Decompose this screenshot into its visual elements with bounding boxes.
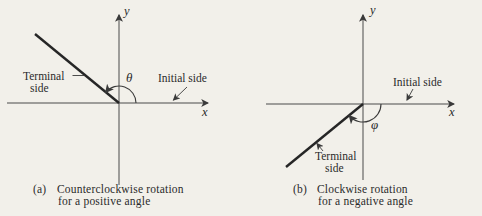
panel-a-terminal-label-line1: Terminal <box>23 70 64 82</box>
angle-rotation-figure: y x θ Terminal side Initial side (a) Cou… <box>0 0 482 216</box>
panel-b-initial-side-label: Initial side <box>393 76 442 88</box>
panel-a-x-axis-label: x <box>201 105 208 119</box>
panel-b-y-axis-label: y <box>368 3 376 17</box>
panel-a-terminal-label-line2: side <box>30 82 49 94</box>
panel-a-counterclockwise: y x θ Terminal side Initial side (a) Cou… <box>7 4 208 208</box>
panel-b-angle-symbol-phi: φ <box>371 117 378 132</box>
panel-b-terminal-label-line2: side <box>325 162 344 174</box>
panel-b-initial-side-pointer <box>407 89 413 100</box>
panel-b-caption-line1: Clockwise rotation <box>317 183 408 195</box>
panel-b-clockwise: y x φ Initial side Terminal side (b) Clo… <box>266 3 455 208</box>
panel-b-terminal-label-line1: Terminal <box>315 150 356 162</box>
figure-canvas: y x θ Terminal side Initial side (a) Cou… <box>0 0 482 216</box>
panel-a-initial-side-pointer <box>174 87 188 100</box>
panel-a-caption-line2: for a positive angle <box>58 195 150 208</box>
panel-a-angle-symbol-theta: θ <box>126 70 133 85</box>
panel-b-caption-prefix: (b) <box>293 183 307 196</box>
panel-a-y-axis-label: y <box>122 4 130 18</box>
panel-a-initial-side-label: Initial side <box>158 72 207 84</box>
panel-b-caption-line2: for a negative angle <box>318 195 413 208</box>
panel-a-caption-line1: Counterclockwise rotation <box>57 183 184 195</box>
panel-b-x-axis-label: x <box>448 105 455 119</box>
panel-a-caption-prefix: (a) <box>33 183 46 196</box>
